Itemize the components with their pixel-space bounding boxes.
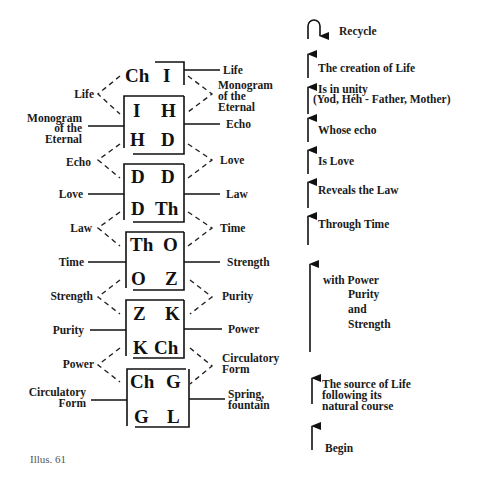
sequence-text: Whose echo xyxy=(318,124,377,136)
left-label: Time xyxy=(59,256,84,268)
letter: G xyxy=(166,371,181,392)
letter: D xyxy=(161,166,175,187)
right-labels: Life Monogram of the Eternal Echo Love L… xyxy=(218,64,280,411)
sequence-text: The creation of Life xyxy=(318,62,415,74)
letter: O xyxy=(131,268,146,289)
letter: D xyxy=(161,129,175,150)
recycle-loop-icon xyxy=(308,20,320,39)
letter: I xyxy=(133,100,140,121)
right-label: Life xyxy=(223,64,243,76)
left-label: Power xyxy=(63,358,94,370)
letter: O xyxy=(163,234,178,255)
left-dashed-chevrons xyxy=(98,76,120,382)
sequence-text: Strength xyxy=(348,318,391,331)
left-label: Law xyxy=(70,222,92,234)
letter: L xyxy=(167,406,180,427)
sequence-text: and xyxy=(348,303,367,315)
right-label: fountain xyxy=(228,399,270,411)
letter: K xyxy=(133,337,148,358)
illustration-caption: Illus. 61 xyxy=(30,453,66,465)
right-label: Eternal xyxy=(218,101,255,113)
sequence-text: with Power xyxy=(323,274,379,286)
right-label: Love xyxy=(220,154,244,166)
left-label: Echo xyxy=(66,156,91,168)
letter: D xyxy=(131,166,145,187)
left-label: Strength xyxy=(50,290,93,303)
letter: Ch xyxy=(130,371,155,392)
right-label: Law xyxy=(226,188,248,200)
right-label: Purity xyxy=(222,290,254,303)
box-3: Th O O Z xyxy=(88,232,220,290)
sequence-text: Recycle xyxy=(339,25,377,38)
box-1: I H H D xyxy=(88,96,220,154)
sequence-text: Is Love xyxy=(318,155,354,167)
box-4: Z K K Ch xyxy=(90,300,222,358)
letter: D xyxy=(131,198,145,219)
sequence-text: natural course xyxy=(322,400,393,412)
left-label: Love xyxy=(59,188,83,200)
letter: H xyxy=(130,129,145,150)
letter: Z xyxy=(165,268,178,289)
right-label: Echo xyxy=(226,118,251,130)
letter: Z xyxy=(133,303,146,324)
right-label: Strength xyxy=(227,256,270,269)
kabbalah-letter-diagram: Ch I I H H D D D D Th Th O O Z xyxy=(0,0,481,486)
left-label: Eternal xyxy=(45,133,82,145)
letter: G xyxy=(134,406,149,427)
sequence-text: Purity xyxy=(348,288,380,301)
letter-i: I xyxy=(163,65,170,86)
left-labels: Life Monogram of the Eternal Echo Love L… xyxy=(27,88,94,409)
letter: Th xyxy=(130,234,154,255)
right-label: Form xyxy=(222,363,250,375)
left-label: Life xyxy=(74,88,94,100)
right-label: Time xyxy=(220,222,245,234)
letter: K xyxy=(165,303,180,324)
letter: H xyxy=(161,100,176,121)
letter: Th xyxy=(155,198,179,219)
top-pair: Ch I xyxy=(125,62,220,86)
sequence-text: Through Time xyxy=(318,218,389,231)
right-label: Power xyxy=(228,323,259,335)
left-label: Form xyxy=(59,397,87,409)
sequence-text: Reveals the Law xyxy=(318,184,399,196)
letter-ch: Ch xyxy=(125,65,150,86)
sequence-text: Begin xyxy=(325,442,354,455)
box-2: D D D Th xyxy=(88,164,220,222)
right-dashed-chevrons xyxy=(188,76,212,384)
sequence-column: Recycle The creation of Life Is in unity… xyxy=(308,20,451,455)
box-5: Ch G G L xyxy=(91,369,225,427)
letter: Ch xyxy=(154,337,179,358)
sequence-text: (Yod, Héh - Father, Mother) xyxy=(313,93,451,106)
left-label: Purity xyxy=(53,324,85,337)
